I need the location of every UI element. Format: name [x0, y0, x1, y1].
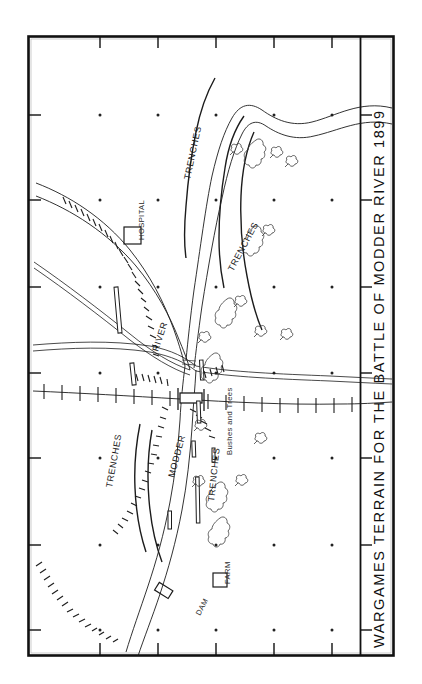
label-farm: FARM	[223, 561, 232, 584]
ridge-south	[190, 409, 215, 438]
ridge-southwest	[113, 407, 168, 534]
dam-symbol	[155, 582, 173, 598]
roads	[33, 262, 392, 384]
label-trenches-southwest: TRENCHES	[104, 433, 123, 488]
map-title: WARGAMES TERRAIN FOR THE BATTLE OF MODDE…	[371, 109, 387, 648]
label-bushes-and-trees: Bushes and Trees	[225, 387, 234, 455]
label-trenches-north: TRENCHES	[182, 125, 203, 180]
map-page: RIVER MODDER HOSPITAL FARM DAM TRENCHES …	[0, 0, 422, 684]
label-hospital: HOSPITAL	[137, 200, 146, 240]
label-modder: MODDER	[166, 434, 187, 479]
label-trenches-northeast: TRENCHES	[226, 220, 260, 273]
label-dam: DAM	[194, 597, 210, 617]
tree-symbols	[192, 144, 298, 487]
label-trenches-south: TRENCHES	[206, 447, 222, 502]
ridge-southwest-corner	[36, 562, 118, 642]
railway-line	[33, 384, 392, 413]
terrain-map-canvas: RIVER MODDER HOSPITAL FARM DAM TRENCHES …	[0, 0, 422, 684]
ridge-bridge-north	[136, 374, 168, 386]
